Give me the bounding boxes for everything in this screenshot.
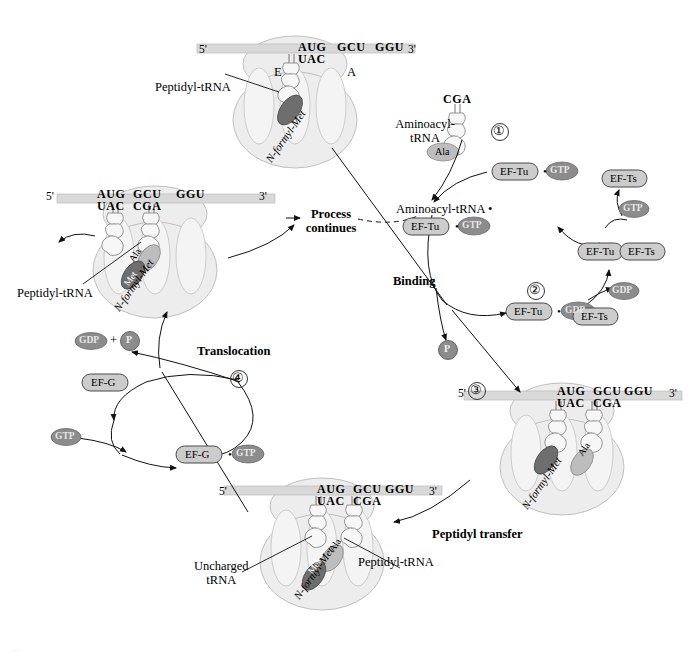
ribosome-top-codon-2: GCU [337, 41, 365, 54]
phosphate-label: P [444, 344, 450, 355]
ribosome-bottom-anticodon-2: CGA [353, 495, 381, 508]
efg-free-label: EF-G [91, 377, 115, 389]
ribosome-right-anticodon-2: CGA [593, 397, 621, 410]
free-aminoacyl-trna-anticodon: CGA [443, 93, 471, 106]
gdp-out-label: GDP [612, 285, 632, 295]
ribosome-top-site-a: A [347, 66, 356, 80]
ribosome-top-site-e: E [274, 66, 282, 80]
eftu-gtp-free-nucleotide-label: GTP [550, 165, 570, 175]
ribosome-bottom-anticodon-1: UAC [317, 495, 345, 508]
ribosome-right-codon-3: GGU [624, 385, 653, 398]
ribosome-top-three-prime: 3' [408, 43, 416, 55]
ribosome-left-peptidyl-trna-label: Peptidyl-tRNA [17, 287, 93, 301]
efg-gtp-nucleotide-label: GTP [236, 448, 256, 458]
efg-plus-sign: + [110, 334, 117, 348]
diagram-vector-layer [0, 0, 692, 661]
efts-free-bottom-label: EF-Ts [581, 311, 608, 323]
ribosome-left-anticodon-2: CGA [133, 200, 161, 213]
translocation-label: Translocation [197, 345, 270, 359]
ribosome-top-anticodon-1: UAC [298, 53, 326, 66]
step-2-number: ② [529, 283, 541, 297]
ribosome-right-five-prime: 5' [458, 387, 466, 399]
free-aminoacyl-trna-label: Aminoacyl- tRNA [394, 118, 456, 145]
eftu-gdp-factor-label: EF-Tu [514, 306, 542, 318]
ribosome-top-codon-3: GGU [375, 41, 404, 54]
ribosome-top-five-prime: 5' [199, 43, 207, 55]
eftu-bound-nucleotide-label: GTP [462, 220, 482, 230]
figure-canvas: 5' 3' AUG GCU GGU UAC E A Peptidyl-tRNA … [0, 0, 692, 661]
ribosome-left-codon-3: GGU [176, 188, 205, 201]
ribosome-left-five-prime: 5' [46, 190, 54, 202]
eftu-bound-factor-label: EF-Tu [411, 221, 439, 233]
process-continues-label: Process continues [299, 208, 363, 235]
ribosome-right-three-prime: 3' [669, 387, 677, 399]
step-4-number: ④ [232, 371, 244, 385]
ribosome-top-peptidyl-trna-label: Peptidyl-tRNA [155, 81, 231, 95]
gtp-in-label: GTP [623, 203, 643, 213]
peptidyl-transfer-label: Peptidyl transfer [432, 528, 523, 542]
ribosome-bottom-five-prime: 5' [219, 485, 227, 497]
efg-gtp-in-label: GTP [55, 431, 75, 441]
eftu-gtp-free-dot: • [543, 166, 547, 178]
ribosome-left-anticodon-1: UAC [97, 200, 125, 213]
binding-label: Binding [393, 275, 435, 289]
ribosome-bottom-three-prime: 3' [429, 485, 437, 497]
watermark-text: ... [12, 645, 19, 652]
eftu-efts-left-label: EF-Tu [586, 246, 614, 258]
efg-gtp-factor-label: EF-G [185, 449, 209, 461]
efg-phosphate-label: P [126, 335, 132, 346]
ribosome-bottom-peptidyl-trna-label: Peptidyl-tRNA [358, 556, 434, 570]
ribosome-left-three-prime: 3' [259, 190, 267, 202]
efts-free-top-label: EF-Ts [610, 173, 637, 185]
step-3-number: ③ [470, 383, 482, 397]
eftu-bound-dot: • [455, 221, 459, 233]
eftu-gdp-dot: • [557, 306, 561, 318]
eftu-gtp-free-factor-label: EF-Tu [500, 166, 528, 178]
eftu-efts-right-label: EF-Ts [628, 246, 655, 258]
ribosome-bottom-codon-3: GGU [385, 483, 414, 496]
ribosome-bottom-uncharged-trna-label: Uncharged tRNA [194, 560, 249, 587]
free-aminoacyl-trna-ala-label: Ala [435, 147, 449, 158]
ribosome-right-anticodon-1: UAC [557, 397, 585, 410]
step-1-number: ① [493, 124, 505, 138]
efg-gdp-label: GDP [79, 335, 99, 345]
efg-gtp-dot: • [228, 449, 232, 461]
aminoacyl-trna-complex-label: Aminoacyl-tRNA • [396, 203, 492, 217]
